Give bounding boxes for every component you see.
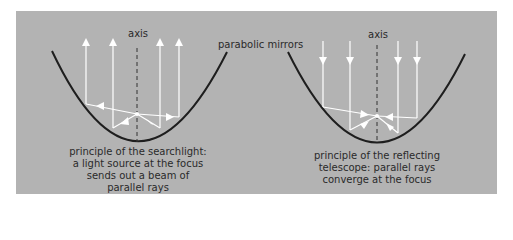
right-axis-label: axis (368, 29, 388, 41)
caption-line: parallel rays (67, 182, 209, 194)
caption-line: sends out a beam of (67, 170, 209, 182)
caption-line: converge at the focus (306, 174, 448, 186)
searchlight-caption: principle of the searchlight: a light so… (67, 146, 209, 194)
parabolic-mirrors-label: parabolic mirrors (218, 39, 303, 51)
caption-line: principle of the searchlight: (67, 146, 209, 158)
left-axis-label: axis (128, 28, 148, 40)
caption-line: telescope: parallel rays (306, 162, 448, 174)
telescope-diagram (288, 41, 465, 143)
telescope-caption: principle of the reflecting telescope: p… (306, 150, 448, 186)
left-parabolic-mirror (52, 51, 227, 141)
caption-line: principle of the reflecting (306, 150, 448, 162)
caption-line: a light source at the focus (67, 158, 209, 170)
searchlight-diagram (52, 42, 227, 142)
